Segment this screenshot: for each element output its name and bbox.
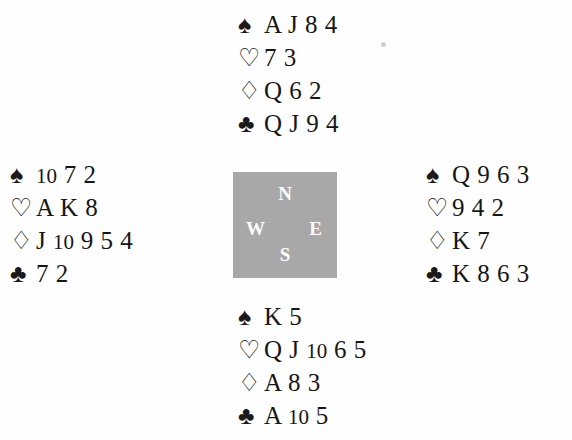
hand-east-hearts-row: ♡ 9 4 2 [426, 191, 530, 224]
heart-icon: ♡ [238, 41, 264, 74]
heart-icon: ♡ [238, 333, 264, 366]
hand-east-clubs-row: ♣ K 8 6 3 [426, 257, 530, 290]
compass-west-label: W [246, 219, 265, 238]
hand-west-diamonds-row: ♢ J 10 9 5 4 [10, 224, 133, 257]
diamond-icon: ♢ [238, 74, 264, 107]
hand-north: ♠ A J 8 4 ♡ 7 3 ♢ Q 6 2 ♣ Q J 9 4 [238, 8, 339, 140]
hand-west-spades: 10 7 2 [36, 158, 97, 193]
hand-north-spades: A J 8 4 [264, 8, 338, 41]
hand-south-spades-row: ♠ K 5 [238, 300, 367, 333]
heart-icon: ♡ [10, 191, 36, 224]
hand-west-hearts: A K 8 [36, 191, 98, 224]
hand-east-hearts: 9 4 2 [452, 191, 505, 224]
hand-east-spades: Q 9 6 3 [452, 158, 530, 191]
hand-south-hearts: Q J 10 6 5 [264, 333, 367, 368]
spade-icon: ♠ [238, 300, 264, 333]
hand-west-clubs: 7 2 [36, 257, 69, 290]
hand-north-hearts-row: ♡ 7 3 [238, 41, 339, 74]
hand-east-diamonds-row: ♢ K 7 [426, 224, 530, 257]
club-icon: ♣ [238, 399, 264, 432]
hand-west-spades-row: ♠ 10 7 2 [10, 158, 133, 191]
hand-east: ♠ Q 9 6 3 ♡ 9 4 2 ♢ K 7 ♣ K 8 6 3 [426, 158, 530, 290]
hand-north-hearts: 7 3 [264, 41, 297, 74]
hand-north-diamonds: Q 6 2 [264, 74, 322, 107]
scan-speck [381, 42, 386, 47]
compass-box: N W E S [233, 172, 337, 278]
hand-north-spades-row: ♠ A J 8 4 [238, 8, 339, 41]
compass-north-label: N [233, 184, 337, 203]
hand-south-diamonds: A 8 3 [264, 366, 321, 399]
diamond-icon: ♢ [10, 224, 36, 257]
hand-east-clubs: K 8 6 3 [452, 257, 530, 290]
hand-south-hearts-row: ♡ Q J 10 6 5 [238, 333, 367, 366]
hand-south-diamonds-row: ♢ A 8 3 [238, 366, 367, 399]
club-icon: ♣ [10, 257, 36, 290]
club-icon: ♣ [426, 257, 452, 290]
hand-west-hearts-row: ♡ A K 8 [10, 191, 133, 224]
bridge-deal-diagram: ♠ A J 8 4 ♡ 7 3 ♢ Q 6 2 ♣ Q J 9 4 ♠ 10 7… [0, 0, 572, 440]
hand-east-diamonds: K 7 [452, 224, 490, 257]
diamond-icon: ♢ [238, 366, 264, 399]
hand-west-clubs-row: ♣ 7 2 [10, 257, 133, 290]
hand-south: ♠ K 5 ♡ Q J 10 6 5 ♢ A 8 3 ♣ A 10 5 [238, 300, 367, 432]
hand-west: ♠ 10 7 2 ♡ A K 8 ♢ J 10 9 5 4 ♣ 7 2 [10, 158, 133, 290]
compass-east-label: E [309, 219, 322, 238]
hand-north-diamonds-row: ♢ Q 6 2 [238, 74, 339, 107]
hand-east-spades-row: ♠ Q 9 6 3 [426, 158, 530, 191]
hand-north-clubs-row: ♣ Q J 9 4 [238, 107, 339, 140]
club-icon: ♣ [238, 107, 264, 140]
hand-south-spades: K 5 [264, 300, 302, 333]
spade-icon: ♠ [426, 158, 452, 191]
hand-south-clubs: A 10 5 [264, 399, 329, 434]
heart-icon: ♡ [426, 191, 452, 224]
diamond-icon: ♢ [426, 224, 452, 257]
hand-west-diamonds: J 10 9 5 4 [36, 224, 133, 259]
hand-north-clubs: Q J 9 4 [264, 107, 339, 140]
spade-icon: ♠ [238, 8, 264, 41]
spade-icon: ♠ [10, 158, 36, 191]
compass-south-label: S [233, 245, 337, 264]
hand-south-clubs-row: ♣ A 10 5 [238, 399, 367, 432]
